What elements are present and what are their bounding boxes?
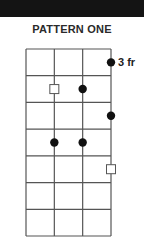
note-dot-icon	[107, 112, 115, 120]
note-dot-icon	[78, 138, 86, 146]
note-dot-icon	[107, 58, 115, 66]
root-square-icon	[107, 165, 116, 174]
root-square-icon	[50, 85, 59, 94]
note-dot-icon	[78, 85, 86, 93]
fretboard-diagram	[0, 0, 144, 248]
note-dot-icon	[50, 138, 58, 146]
fret-position-label: 3 fr	[118, 56, 135, 68]
